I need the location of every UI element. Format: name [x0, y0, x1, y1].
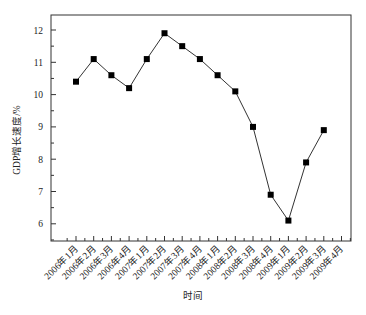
data-point-marker: [108, 72, 114, 78]
data-point-marker: [91, 56, 97, 62]
plot-frame: [51, 15, 351, 241]
data-point-marker: [126, 85, 132, 91]
y-tick-label: 9: [38, 122, 43, 132]
x-axis: 2006年1月2006年2月2006年3月2006年4月2007年1月2007年…: [42, 236, 351, 281]
y-tick-label: 11: [34, 58, 43, 68]
y-axis-title: GDP增长速度/%: [11, 105, 22, 175]
y-axis: 6789101112: [34, 26, 57, 240]
data-point-marker: [197, 56, 203, 62]
y-tick-label: 12: [34, 26, 44, 36]
x-axis-title: 时间: [183, 290, 203, 301]
data-point-marker: [162, 30, 168, 36]
y-tick-label: 6: [38, 219, 43, 229]
data-point-marker: [321, 127, 327, 133]
data-point-marker: [303, 159, 309, 165]
data-point-marker: [232, 88, 238, 94]
y-tick-label: 7: [38, 187, 43, 197]
y-tick-label: 8: [38, 155, 43, 165]
line-chart: 6789101112 2006年1月2006年2月2006年3月2006年4月2…: [0, 0, 366, 315]
data-point-marker: [179, 43, 185, 49]
data-point-marker: [250, 124, 256, 130]
data-point-marker: [73, 79, 79, 85]
data-point-marker: [285, 218, 291, 224]
data-point-marker: [215, 72, 221, 78]
data-point-marker: [268, 192, 274, 198]
y-tick-label: 10: [34, 90, 44, 100]
data-series: [73, 30, 327, 223]
data-point-marker: [144, 56, 150, 62]
